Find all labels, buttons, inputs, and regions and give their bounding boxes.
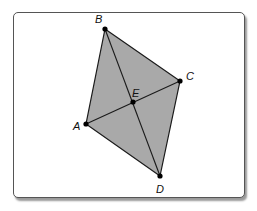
point-D — [157, 173, 162, 178]
point-C — [177, 78, 182, 83]
point-E — [130, 99, 135, 104]
label-A: A — [72, 120, 80, 132]
label-D: D — [156, 183, 164, 195]
quadrilateral-diagram: A B C D E — [0, 0, 257, 211]
label-C: C — [186, 70, 194, 82]
label-E: E — [132, 87, 140, 99]
point-A — [83, 121, 88, 126]
point-B — [102, 26, 107, 31]
label-B: B — [95, 13, 102, 25]
